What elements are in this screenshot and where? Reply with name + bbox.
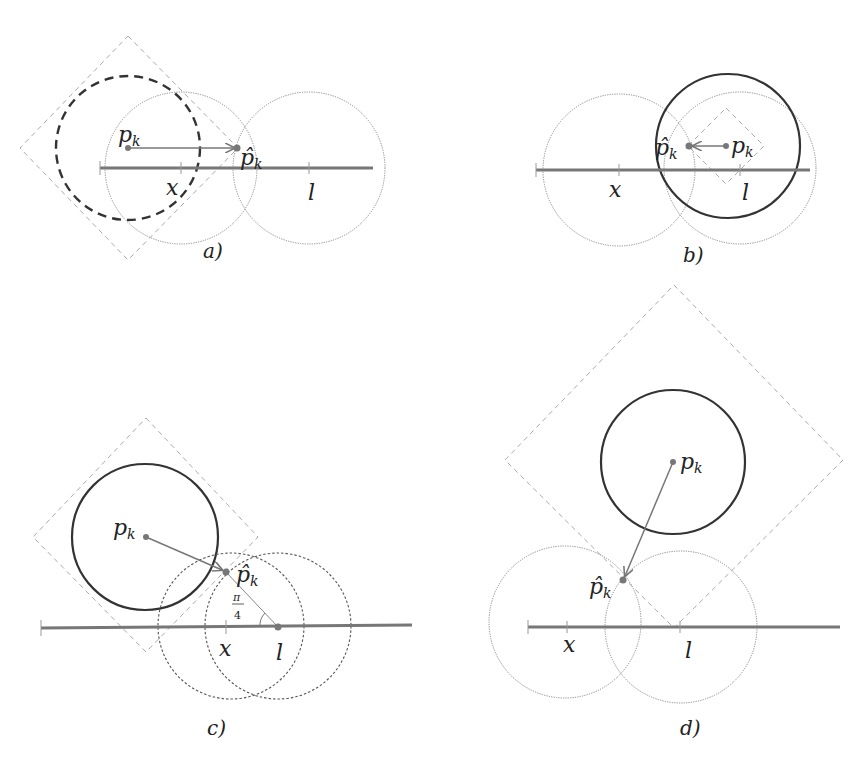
caption-d: d) (680, 716, 701, 740)
point-phat (620, 577, 627, 584)
point-phat (686, 143, 693, 150)
panel-a: pk p̂k x l a) (20, 36, 385, 263)
panel-b: pk p̂k x l b) (536, 74, 816, 267)
label-phat: p̂k (589, 574, 612, 601)
point-pk (143, 534, 149, 540)
label-x: x (609, 177, 622, 202)
point-pk (670, 459, 676, 465)
label-phat: p̂k (655, 135, 678, 162)
angle-numerator: π (232, 591, 241, 604)
label-l: l (742, 180, 749, 205)
label-l: l (685, 638, 692, 663)
panel-d: pk p̂k x l d) (489, 285, 843, 740)
label-phat: p̂k (240, 145, 263, 172)
panel-c: pk p̂k π 4 x l c) (33, 418, 412, 740)
label-x: x (219, 636, 232, 661)
angle-denominator: 4 (234, 609, 241, 622)
label-x: x (563, 632, 576, 657)
label-phat: p̂k (236, 562, 259, 589)
caption-b: b) (683, 243, 704, 267)
label-pk: pk (680, 449, 703, 476)
point-l (275, 624, 282, 631)
projection-arrow (146, 537, 222, 570)
figure: pk p̂k x l a) pk p̂k x l b) (0, 0, 867, 772)
label-l: l (276, 640, 283, 665)
label-pk: pk (118, 122, 141, 149)
label-pk: pk (113, 515, 136, 542)
point-pk (723, 143, 729, 149)
point-phat (223, 569, 230, 576)
label-pk: pk (731, 133, 754, 160)
circle-x (489, 546, 641, 698)
projection-arrow (625, 462, 673, 576)
caption-a: a) (203, 239, 223, 263)
diamond-region (505, 285, 843, 628)
label-l: l (308, 180, 315, 205)
caption-c: c) (207, 716, 226, 740)
label-x: x (166, 175, 179, 200)
